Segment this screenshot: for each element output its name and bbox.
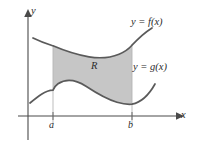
- tick-label-a: a: [49, 120, 54, 130]
- curve-f-upper: [33, 28, 152, 58]
- x-axis-label: x: [181, 110, 186, 121]
- figure-canvas: [0, 0, 197, 145]
- curve-label-g: y = g(x): [133, 62, 167, 73]
- y-axis-label: y: [31, 6, 36, 17]
- tick-label-b: b: [128, 120, 133, 130]
- region-label-R: R: [91, 61, 97, 72]
- curve-label-f: y = f(x): [131, 17, 163, 28]
- area-between-curves-figure: y = f(x) y = g(x) y x a b R: [0, 0, 197, 145]
